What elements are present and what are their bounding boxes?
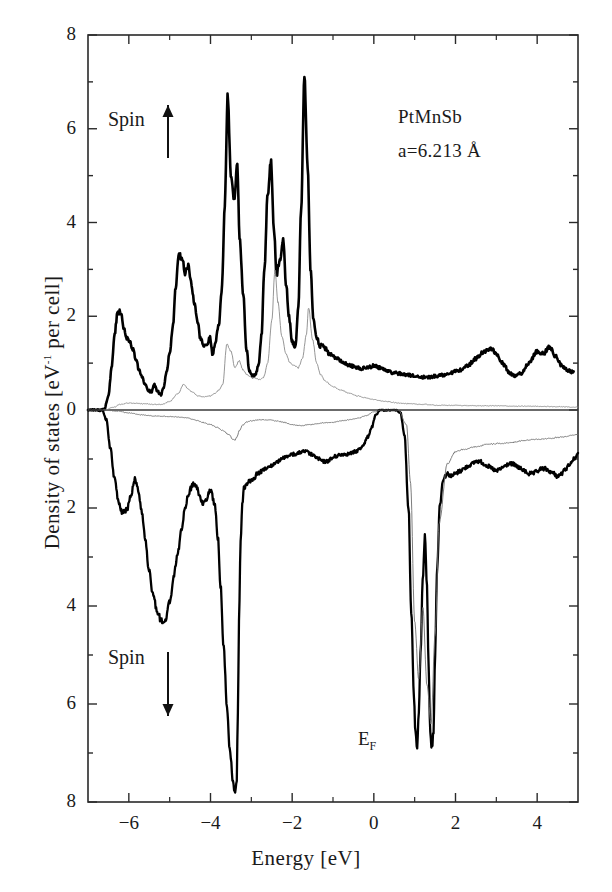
- y-tick-label-up-4: 4: [46, 211, 76, 233]
- dos-figure: Density of states [eV-1 per cell] Energy…: [0, 0, 612, 892]
- spin-up-arrow-icon: [163, 105, 174, 158]
- y-tick-label-up-2: 2: [46, 304, 76, 326]
- y-tick-label-down-4: 4: [46, 594, 76, 616]
- y-tick-label-down-2: 2: [46, 496, 76, 518]
- y-axis-label-superscript: -1: [41, 354, 53, 364]
- total-dos-spin-up: [88, 77, 574, 410]
- y-tick-label-up-0: 0: [46, 398, 76, 420]
- fermi-level-label: EF: [358, 728, 376, 754]
- x-tick-label--4: −4: [191, 812, 231, 834]
- total-dos-spin-down: [88, 410, 578, 793]
- y-tick-label-down-6: 6: [46, 692, 76, 714]
- x-tick-label-0: 0: [354, 812, 394, 834]
- x-tick-label--2: −2: [272, 812, 312, 834]
- x-tick-label-4: 4: [517, 812, 557, 834]
- plot-frame: [88, 35, 578, 802]
- x-tick-label-2: 2: [436, 812, 476, 834]
- dos-curves: [88, 77, 578, 793]
- x-axis-label: Energy [eV]: [0, 846, 612, 871]
- dos-plot-canvas: [0, 0, 612, 892]
- compound-annotation: PtMnSb: [398, 106, 462, 128]
- lattice-constant-annotation: a=6.213 Å: [398, 140, 481, 162]
- spin-down-label: Spin: [108, 646, 145, 669]
- spin-down-arrow-icon: [163, 652, 174, 716]
- fermi-level-symbol: E: [358, 728, 370, 749]
- y-tick-label-down-8: 8: [46, 790, 76, 812]
- y-axis-label-main: Density of states [eV: [40, 364, 64, 549]
- y-tick-label-up-8: 8: [46, 23, 76, 45]
- y-tick-label-up-6: 6: [46, 117, 76, 139]
- fermi-level-subscript: F: [370, 739, 377, 753]
- axis-ticks: [88, 35, 578, 802]
- spin-up-label: Spin: [108, 108, 145, 131]
- x-tick-label--6: −6: [109, 812, 149, 834]
